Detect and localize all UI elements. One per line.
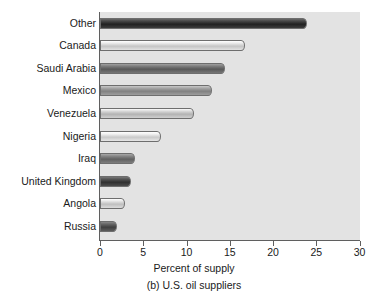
category-label: Russia xyxy=(64,219,96,233)
bar xyxy=(100,40,245,51)
bar-row: Iraq xyxy=(0,148,388,171)
bar-row: United Kingdom xyxy=(0,171,388,194)
bar-row: Russia xyxy=(0,216,388,239)
bar xyxy=(100,176,131,187)
figure-caption: (b) U.S. oil suppliers xyxy=(0,279,388,291)
x-axis-tick-label: 5 xyxy=(140,246,146,259)
category-label: Mexico xyxy=(63,83,96,97)
category-label: Canada xyxy=(59,38,96,52)
x-axis-tick-label: 0 xyxy=(97,246,103,259)
bar-chart-figure: OtherCanadaSaudi ArabiaMexicoVenezuelaNi… xyxy=(0,0,388,295)
bar-row: Mexico xyxy=(0,80,388,103)
x-axis-tick-label: 10 xyxy=(181,246,193,259)
bar xyxy=(100,63,225,74)
bar-row: Nigeria xyxy=(0,126,388,149)
category-label: Angola xyxy=(63,196,96,210)
x-axis-title: Percent of supply xyxy=(0,262,388,274)
bar-row: Angola xyxy=(0,193,388,216)
x-axis-tick-label: 15 xyxy=(224,246,236,259)
bar xyxy=(100,85,212,96)
bar-row: Other xyxy=(0,13,388,36)
category-label: Nigeria xyxy=(63,129,96,143)
category-label: Iraq xyxy=(78,151,96,165)
category-label: United Kingdom xyxy=(21,174,96,188)
bar xyxy=(100,198,125,209)
bar xyxy=(100,131,161,142)
category-label: Saudi Arabia xyxy=(36,61,96,75)
bar xyxy=(100,18,307,29)
x-axis-tick-label: 30 xyxy=(354,246,366,259)
bar xyxy=(100,108,194,119)
bar-row: Saudi Arabia xyxy=(0,58,388,81)
x-axis-tick-label: 25 xyxy=(310,246,322,259)
bar-row: Venezuela xyxy=(0,103,388,126)
bar-row: Canada xyxy=(0,35,388,58)
category-label: Other xyxy=(70,16,96,30)
bar xyxy=(100,221,117,232)
bar xyxy=(100,153,135,164)
x-axis-tick-label: 20 xyxy=(267,246,279,259)
category-label: Venezuela xyxy=(47,106,96,120)
